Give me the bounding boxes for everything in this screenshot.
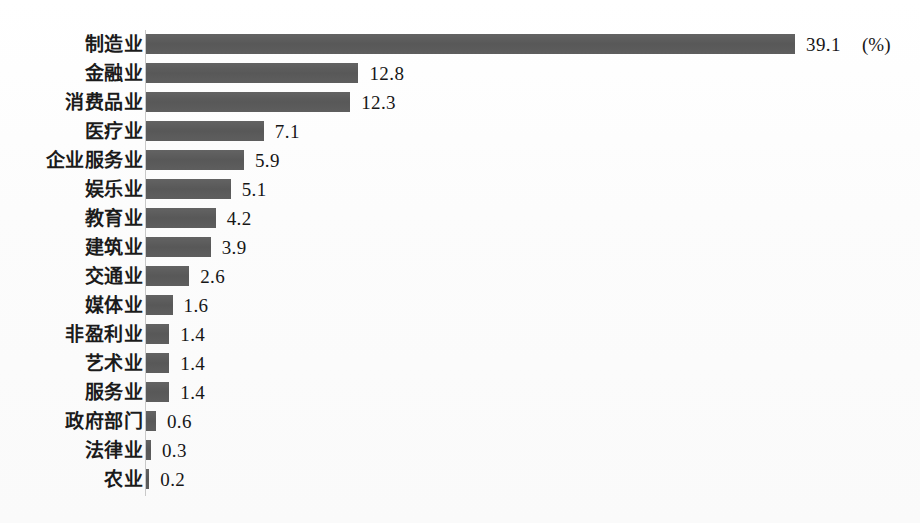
- bar-row: 交通业2.6: [0, 262, 920, 291]
- bar-row: 法律业0.3: [0, 436, 920, 465]
- bar-row: 教育业4.2: [0, 204, 920, 233]
- bar-row: 服务业1.4: [0, 378, 920, 407]
- bar-row: 医疗业7.1: [0, 117, 920, 146]
- category-label: 农业: [104, 465, 143, 494]
- category-label: 制造业: [85, 30, 144, 59]
- bar: [146, 469, 149, 489]
- category-label: 建筑业: [85, 233, 144, 262]
- bar-value-label: 1.4: [180, 378, 205, 407]
- bar: [146, 382, 169, 402]
- bar-value-label: 5.1: [242, 175, 267, 204]
- bar: [146, 266, 189, 286]
- bar-value-label: 39.1: [806, 30, 841, 59]
- bar-value-label: 1.4: [180, 320, 205, 349]
- bar-row: 消费品业12.3: [0, 88, 920, 117]
- bar-value-label: 3.9: [222, 233, 247, 262]
- category-label: 娱乐业: [85, 175, 144, 204]
- bar-row: 企业服务业5.9: [0, 146, 920, 175]
- category-label: 艺术业: [85, 349, 144, 378]
- bar-row: 媒体业1.6: [0, 291, 920, 320]
- bar-value-label: 0.2: [160, 465, 185, 494]
- bar: [146, 179, 231, 199]
- category-label: 企业服务业: [46, 146, 144, 175]
- bar: [146, 295, 173, 315]
- bar: [146, 208, 216, 228]
- bar: [146, 237, 211, 257]
- horizontal-bar-chart: (%) 制造业39.1金融业12.8消费品业12.3医疗业7.1企业服务业5.9…: [0, 0, 920, 523]
- category-label: 金融业: [85, 59, 144, 88]
- bar: [146, 34, 795, 54]
- bar-row: 艺术业1.4: [0, 349, 920, 378]
- bar: [146, 440, 151, 460]
- bar-value-label: 1.4: [180, 349, 205, 378]
- bar: [146, 353, 169, 373]
- bar: [146, 150, 244, 170]
- bar-row: 制造业39.1: [0, 30, 920, 59]
- bar: [146, 92, 350, 112]
- bar-value-label: 1.6: [184, 291, 209, 320]
- bar: [146, 63, 358, 83]
- bar: [146, 411, 156, 431]
- bar-value-label: 5.9: [255, 146, 280, 175]
- bar-row: 农业0.2: [0, 465, 920, 494]
- bar: [146, 324, 169, 344]
- bar-value-label: 4.2: [227, 204, 252, 233]
- category-label: 非盈利业: [65, 320, 143, 349]
- bar-row: 政府部门0.6: [0, 407, 920, 436]
- bar-value-label: 0.6: [167, 407, 192, 436]
- bar-value-label: 12.3: [361, 88, 396, 117]
- category-label: 法律业: [85, 436, 144, 465]
- category-label: 交通业: [85, 262, 144, 291]
- bar-value-label: 12.8: [369, 59, 404, 88]
- category-label: 教育业: [85, 204, 144, 233]
- bar-value-label: 7.1: [275, 117, 300, 146]
- category-label: 服务业: [85, 378, 144, 407]
- category-label: 医疗业: [85, 117, 144, 146]
- category-label: 媒体业: [85, 291, 144, 320]
- bar-row: 金融业12.8: [0, 59, 920, 88]
- bar-row: 非盈利业1.4: [0, 320, 920, 349]
- bar-value-label: 2.6: [200, 262, 225, 291]
- bar: [146, 121, 264, 141]
- bar-row: 娱乐业5.1: [0, 175, 920, 204]
- bar-row: 建筑业3.9: [0, 233, 920, 262]
- category-label: 消费品业: [65, 88, 143, 117]
- category-label: 政府部门: [65, 407, 143, 436]
- bar-value-label: 0.3: [162, 436, 187, 465]
